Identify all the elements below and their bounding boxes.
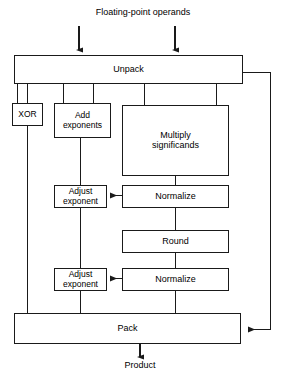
edge-unpack-pack-bypass — [243, 73, 271, 330]
diagram-canvas — [0, 0, 286, 377]
box-round — [123, 231, 229, 253]
box-pack — [15, 314, 241, 344]
floating-point-multiplication-diagram: Floating-point operands Unpack XOR Add e… — [0, 0, 286, 377]
box-adjust-exponent-1 — [55, 186, 107, 208]
box-multiply-significands — [123, 106, 229, 176]
output-product-label: Product — [90, 360, 190, 370]
box-xor — [13, 104, 43, 126]
input-operands-label: Floating-point operands — [0, 7, 286, 17]
box-unpack — [15, 56, 243, 84]
box-adjust-exponent-2 — [55, 269, 107, 291]
box-normalize-1 — [123, 186, 229, 208]
box-add-exponents — [55, 104, 111, 138]
box-normalize-2 — [123, 269, 229, 291]
